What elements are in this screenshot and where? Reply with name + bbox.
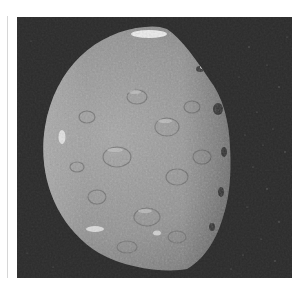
moon-photograph: Grayscale spacecraft photograph of a hea…	[17, 17, 292, 278]
vertical-divider-line	[7, 16, 8, 278]
moon-image-svg	[17, 17, 292, 278]
